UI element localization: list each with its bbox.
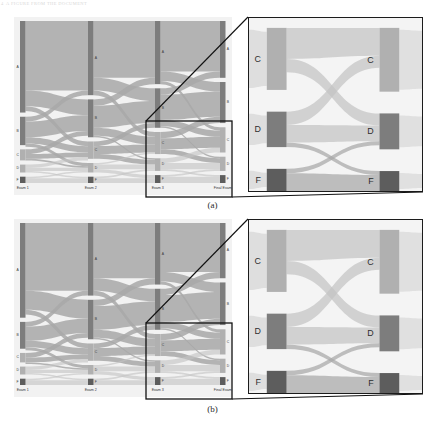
figure-header-note: A FIGURE FROM THE DOCUMENT — [6, 1, 87, 6]
sankey-inset-canvas-a: CDFCDF — [249, 18, 422, 191]
stage-axis-label-0: Exam 1 — [17, 388, 29, 392]
grade-node-label-f: F — [17, 380, 19, 384]
grade-node-label-f: F — [95, 178, 97, 182]
inset-grade-label-f: F — [255, 377, 261, 387]
inset-grade-label-f: F — [368, 378, 374, 388]
grade-node-label-c: C — [162, 343, 164, 347]
inset-grade-label-c: C — [254, 256, 261, 266]
grade-node-label-c: C — [17, 153, 19, 157]
grade-node-label-d: D — [95, 368, 97, 372]
grade-node-label-d: D — [17, 368, 19, 372]
grade-node-label-b: B — [17, 129, 19, 133]
grade-node-label-a: A — [17, 65, 19, 69]
grade-node-label-d: D — [227, 162, 229, 166]
inset-grade-label-d: D — [367, 126, 373, 136]
sankey-inset-a: CDFCDF — [248, 17, 423, 192]
inset-grade-label-c: C — [367, 55, 374, 65]
sankey-inset-canvas-b: CDFCDF — [249, 220, 422, 393]
sankey-panel-b: CDFCDF ABCDFABCDFABCDFABCDFExam 1Exam 2E… — [0, 216, 425, 408]
grade-node-label-f: F — [162, 177, 164, 181]
sankey-flow-canvas-a — [14, 17, 232, 195]
stage-axis-label-1: Exam 2 — [85, 388, 97, 392]
inset-grade-label-f: F — [255, 175, 261, 185]
grade-node-label-b: B — [162, 307, 164, 311]
inset-grade-label-d: D — [254, 326, 260, 336]
inset-grade-label-f: F — [368, 176, 374, 186]
stage-axis-label-3: Final Exam — [214, 388, 232, 392]
sankey-panel-a: CDFCDF ABCDFABCDFABCDFABCDFExam 1Exam 2E… — [0, 14, 425, 206]
stage-axis-label-3: Final Exam — [214, 186, 232, 190]
grade-node-label-b: B — [95, 317, 97, 321]
grade-node-label-c: C — [95, 350, 97, 354]
stage-axis-label-2: Exam 3 — [152, 388, 164, 392]
panel-b-caption: (b) — [0, 404, 425, 414]
inset-grade-label-c: C — [254, 54, 261, 64]
inset-grade-label-c: C — [367, 257, 374, 267]
inset-grade-label-d: D — [254, 124, 260, 134]
grade-node-label-b: B — [227, 302, 229, 306]
grade-node-label-f: F — [227, 379, 229, 383]
stage-axis-label-2: Exam 3 — [152, 186, 164, 190]
figure-header-number: 4 — [1, 1, 3, 6]
grade-node-label-b: B — [95, 116, 97, 120]
grade-node-label-d: D — [95, 166, 97, 170]
grade-node-label-a: A — [95, 257, 97, 261]
grade-node-label-d: D — [227, 364, 229, 368]
sankey-main-chart-b — [14, 219, 232, 397]
grade-node-label-b: B — [162, 106, 164, 110]
stage-axis-label-0: Exam 1 — [17, 186, 29, 190]
grade-node-label-c: C — [17, 355, 19, 359]
grade-node-label-c: C — [227, 340, 229, 344]
figure-page: 4 A FIGURE FROM THE DOCUMENT CDFCDF ABCD… — [0, 0, 425, 428]
inset-grade-label-d: D — [367, 328, 373, 338]
grade-node-label-a: A — [17, 268, 19, 272]
sankey-main-chart-a — [14, 17, 232, 195]
grade-node-label-a: A — [162, 252, 164, 256]
stage-axis-label-1: Exam 2 — [85, 186, 97, 190]
grade-node-label-f: F — [162, 379, 164, 383]
grade-node-label-c: C — [227, 138, 229, 142]
grade-node-label-d: D — [162, 162, 164, 166]
sankey-flow-canvas-b — [14, 219, 232, 397]
grade-node-label-c: C — [95, 148, 97, 152]
grade-node-label-a: A — [227, 248, 229, 252]
grade-node-label-c: C — [162, 141, 164, 145]
grade-node-label-b: B — [17, 333, 19, 337]
panel-a-caption: (a) — [0, 200, 425, 210]
grade-node-label-f: F — [17, 178, 19, 182]
grade-node-label-d: D — [17, 166, 19, 170]
grade-node-label-f: F — [227, 177, 229, 181]
grade-node-label-a: A — [162, 50, 164, 54]
grade-node-label-d: D — [162, 364, 164, 368]
sankey-inset-b: CDFCDF — [248, 219, 423, 394]
grade-node-label-a: A — [95, 56, 97, 60]
grade-node-label-b: B — [227, 100, 229, 104]
grade-node-label-a: A — [227, 47, 229, 51]
grade-node-label-f: F — [95, 380, 97, 384]
